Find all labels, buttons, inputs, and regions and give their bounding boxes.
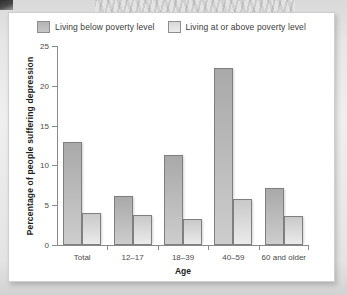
x-tick-mark xyxy=(259,246,260,250)
y-tick-label: 0 xyxy=(45,241,49,250)
x-tick-label: 12–17 xyxy=(121,253,143,262)
legend-swatch-above-icon xyxy=(168,21,181,33)
y-axis-title-text: Percentage of people suffering depressio… xyxy=(25,57,35,236)
y-tick-label: 10 xyxy=(40,161,49,170)
x-axis-title: Age xyxy=(57,266,309,276)
bar-below-poverty xyxy=(63,142,82,245)
bar-below-poverty xyxy=(214,68,233,246)
legend-swatch-below-icon xyxy=(37,21,50,33)
x-axis-line xyxy=(57,245,309,246)
bar-at-or-above-poverty xyxy=(284,216,303,245)
x-tick-label: 18–39 xyxy=(172,253,194,262)
bar-group-4 xyxy=(208,45,258,245)
x-tick-mark xyxy=(158,246,159,250)
y-axis-title: Percentage of people suffering depressio… xyxy=(23,51,37,241)
y-tick-mark xyxy=(52,245,57,246)
x-tick-label: Total xyxy=(74,253,91,262)
bar-group-5 xyxy=(259,45,309,245)
bar-at-or-above-poverty xyxy=(133,215,152,245)
x-tick-label: 40–59 xyxy=(222,253,244,262)
chart-card: Living below poverty level Living at or … xyxy=(8,12,335,282)
y-tick-label: 20 xyxy=(40,81,49,90)
x-tick-mark xyxy=(208,246,209,250)
legend-label-at-or-above-poverty: Living at or above poverty level xyxy=(186,22,306,32)
x-tick-mark xyxy=(308,246,309,250)
x-tick-label: 60 and older xyxy=(262,253,306,262)
y-tick-label: 5 xyxy=(45,201,49,210)
corner-artifact xyxy=(0,0,13,10)
bar-at-or-above-poverty xyxy=(183,219,202,245)
y-tick-label: 25 xyxy=(40,42,49,51)
bar-group-2 xyxy=(107,45,157,245)
bar-at-or-above-poverty xyxy=(233,199,252,245)
bar-below-poverty xyxy=(114,196,133,245)
legend-item-at-or-above-poverty: Living at or above poverty level xyxy=(168,21,306,33)
bar-at-or-above-poverty xyxy=(82,213,101,245)
bar-below-poverty xyxy=(164,155,183,245)
y-tick-0: 0 xyxy=(57,245,58,246)
bar-group-1 xyxy=(57,45,107,245)
legend-item-below-poverty: Living below poverty level xyxy=(37,21,154,33)
legend-label-below-poverty: Living below poverty level xyxy=(55,22,154,32)
chart-legend: Living below poverty level Living at or … xyxy=(9,21,334,33)
y-tick-label: 15 xyxy=(40,121,49,130)
bar-group-3 xyxy=(158,45,208,245)
plot-area: 0510152025 Total12–1718–3940–5960 and ol… xyxy=(57,46,309,246)
bar-below-poverty xyxy=(265,188,284,245)
x-tick-mark xyxy=(107,246,108,250)
